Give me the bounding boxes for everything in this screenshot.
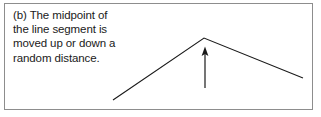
displacement-arrow-icon	[202, 47, 209, 89]
displaced-line-segment-path	[113, 38, 303, 100]
figure-root: (b) The midpoint of the line segment is …	[0, 0, 321, 117]
midpoint-displacement-diagram	[0, 0, 321, 117]
